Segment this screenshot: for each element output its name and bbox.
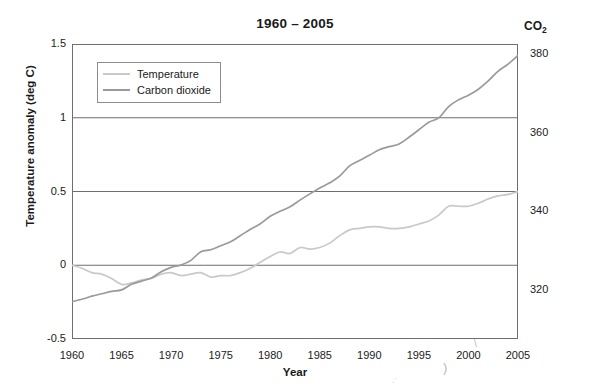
legend-item-temperature: Temperature [103, 66, 211, 82]
x-tick-label: 1980 [245, 349, 295, 361]
legend-swatch-temperature [103, 73, 130, 75]
right-axis-title: CO2 [524, 19, 547, 35]
x-tick-label: 1995 [394, 349, 444, 361]
right-axis-title-subscript: 2 [542, 25, 547, 35]
right-axis-title-base: CO [524, 19, 542, 33]
x-tick-label: 1990 [344, 349, 394, 361]
figure-canvas: 1960 – 2005 CO2 -0.500.511.5 32034036038… [0, 0, 591, 392]
right-tick-label: 340 [530, 204, 576, 216]
legend-label-carbon-dioxide: Carbon dioxide [137, 84, 211, 96]
x-tick-label: 1985 [295, 349, 345, 361]
legend-swatch-carbon-dioxide [103, 89, 130, 91]
chart-title: 1960 – 2005 [72, 16, 518, 31]
scan-artifact-mark: \ [474, 338, 477, 349]
x-tick-label: 1960 [47, 349, 97, 361]
legend: Temperature Carbon dioxide [97, 62, 221, 103]
left-tick-label: 0 [20, 258, 66, 270]
right-tick-label: 380 [530, 47, 576, 59]
x-tick-label: 2005 [493, 349, 543, 361]
x-tick-label: 1975 [196, 349, 246, 361]
legend-item-carbon-dioxide: Carbon dioxide [103, 82, 211, 98]
left-tick-label: -0.5 [20, 332, 66, 344]
right-tick-label: 320 [530, 283, 576, 295]
left-axis-label: Temperature anomaly (deg C) [24, 46, 36, 246]
x-tick-label: 1970 [146, 349, 196, 361]
x-tick-label: 2000 [443, 349, 493, 361]
gridlines [72, 118, 518, 266]
legend-label-temperature: Temperature [137, 68, 199, 80]
x-tick-label: 1965 [97, 349, 147, 361]
x-axis-label: Year [72, 366, 518, 378]
series-line-temperature [72, 192, 518, 285]
right-tick-label: 360 [530, 126, 576, 138]
